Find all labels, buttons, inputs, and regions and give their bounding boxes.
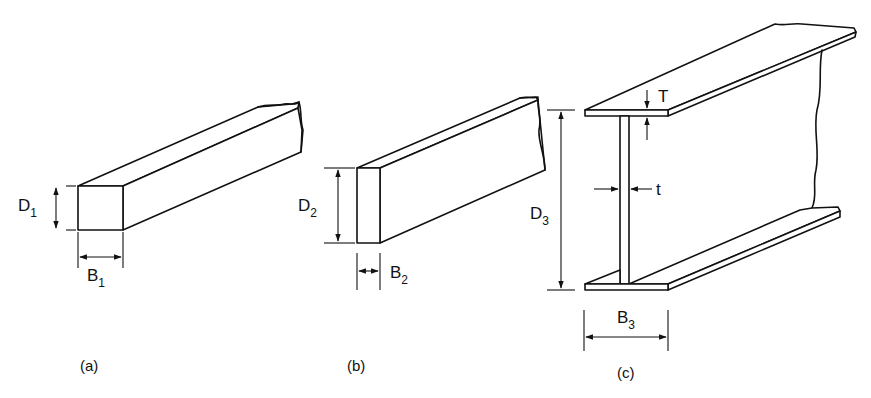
bar-b-front-face (357, 168, 380, 243)
b3-label: B3 (617, 308, 635, 332)
beam-cross-section-figure: D1 B1 (a) D2 B2 (b) (0, 0, 871, 398)
web-break-line (812, 50, 822, 208)
panel-b-rect-bar: D2 B2 (b) (298, 97, 545, 374)
bottom-flange-edge (668, 211, 840, 290)
web-thickness-label: t (656, 180, 661, 199)
panel-a-square-bar: D1 B1 (a) (18, 102, 303, 374)
bottom-flange-left-surface (585, 270, 620, 284)
bar-a-front-face (78, 186, 123, 230)
caption-b: (b) (347, 357, 365, 374)
d2-label: D2 (298, 196, 317, 220)
panel-c-i-beam: D3 T t B3 (c) (530, 24, 856, 381)
top-flange-front (585, 110, 668, 116)
caption-a: (a) (80, 357, 98, 374)
d3-label: D3 (530, 204, 549, 228)
web-front (620, 116, 629, 284)
b1-label: B1 (87, 266, 105, 290)
top-flange-top-surface (585, 24, 856, 110)
caption-c: (c) (617, 364, 635, 381)
bottom-flange-front (585, 284, 668, 290)
flange-thickness-label: T (658, 87, 668, 106)
bar-b-side-face (380, 100, 545, 243)
d1-label: D1 (18, 196, 37, 220)
b2-label: B2 (390, 263, 408, 287)
bottom-flange-right-surface (629, 207, 840, 284)
